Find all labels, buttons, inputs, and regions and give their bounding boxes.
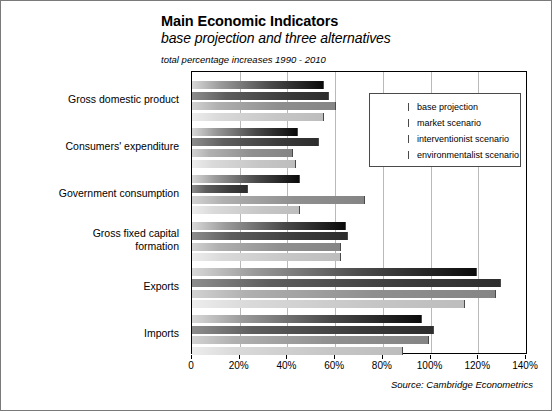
bar [192, 326, 434, 334]
bar [192, 81, 324, 89]
legend-label-market-scenario: market scenario [417, 118, 481, 128]
bar [192, 232, 348, 240]
chart-title: Main Economic Indicators [161, 13, 491, 30]
y-axis-label: Gross fixed capital formation [59, 227, 179, 252]
x-tickmark-140 [525, 355, 526, 359]
legend-item-interventionist-scenario: interventionist scenario [370, 131, 520, 147]
legend-swatch-interventionist-scenario [378, 135, 409, 143]
legend-swatch-environmentalist-scenario [378, 151, 409, 159]
title-block: Main Economic Indicators base projection… [161, 13, 491, 67]
legend-item-market-scenario: market scenario [370, 115, 520, 131]
x-tickmark-80 [382, 355, 383, 359]
x-tickmark-60 [334, 355, 335, 359]
chart-subtitle: base projection and three alternatives [161, 30, 491, 47]
x-tickmark-120 [477, 355, 478, 359]
legend-item-base-projection: base projection [370, 99, 520, 115]
x-tick-label-80: 80% [372, 360, 392, 371]
bar [192, 336, 429, 344]
y-axis-label: Government consumption [59, 187, 179, 200]
x-axis-ticks: 020%40%60%80%100%120%140% [191, 355, 527, 371]
y-axis-labels: Gross domestic productConsumers' expendi… [19, 71, 185, 352]
bar [192, 243, 341, 251]
x-tickmark-20 [239, 355, 240, 359]
chart-figure: Main Economic Indicators base projection… [0, 0, 552, 411]
x-tick-label-60: 60% [324, 360, 344, 371]
x-tick-label-40: 40% [276, 360, 296, 371]
y-axis-label: Consumers' expenditure [66, 140, 179, 153]
bar [192, 138, 319, 146]
bar [192, 315, 422, 323]
x-tickmark-100 [430, 355, 431, 359]
y-axis-label: Imports [144, 327, 179, 340]
legend-swatch-base-projection [378, 103, 409, 111]
legend-label-environmentalist-scenario: environmentalist scenario [417, 150, 519, 160]
bar [192, 102, 336, 110]
x-tick-label-0: 0 [188, 360, 194, 371]
bar [192, 175, 300, 183]
bar-group [192, 166, 526, 213]
bar [192, 149, 293, 157]
x-tick-label-20: 20% [229, 360, 249, 371]
bar [192, 347, 403, 355]
bar [192, 268, 477, 276]
source-note: Source: Cambridge Econometrics [391, 379, 533, 390]
x-tick-label-140: 140% [512, 360, 538, 371]
x-tick-label-100: 100% [417, 360, 443, 371]
y-axis-label: Gross domestic product [68, 93, 179, 106]
bar [192, 290, 496, 298]
bar-group [192, 213, 526, 260]
bar-group [192, 259, 526, 306]
x-tickmark-0 [191, 355, 192, 359]
legend-swatch-market-scenario [378, 119, 409, 127]
chart-note: total percentage increases 1990 - 2010 [161, 53, 491, 67]
bar-group [192, 306, 526, 353]
bar [192, 222, 346, 230]
bar [192, 92, 329, 100]
x-tick-label-120: 120% [464, 360, 490, 371]
legend-label-base-projection: base projection [417, 102, 478, 112]
legend-item-environmentalist-scenario: environmentalist scenario [370, 147, 520, 163]
bar [192, 128, 298, 136]
x-tickmark-40 [286, 355, 287, 359]
bar [192, 185, 248, 193]
legend: base projection market scenario interven… [369, 93, 521, 167]
bar [192, 279, 501, 287]
y-axis-label: Exports [143, 280, 179, 293]
legend-label-interventionist-scenario: interventionist scenario [417, 134, 509, 144]
bar [192, 196, 365, 204]
